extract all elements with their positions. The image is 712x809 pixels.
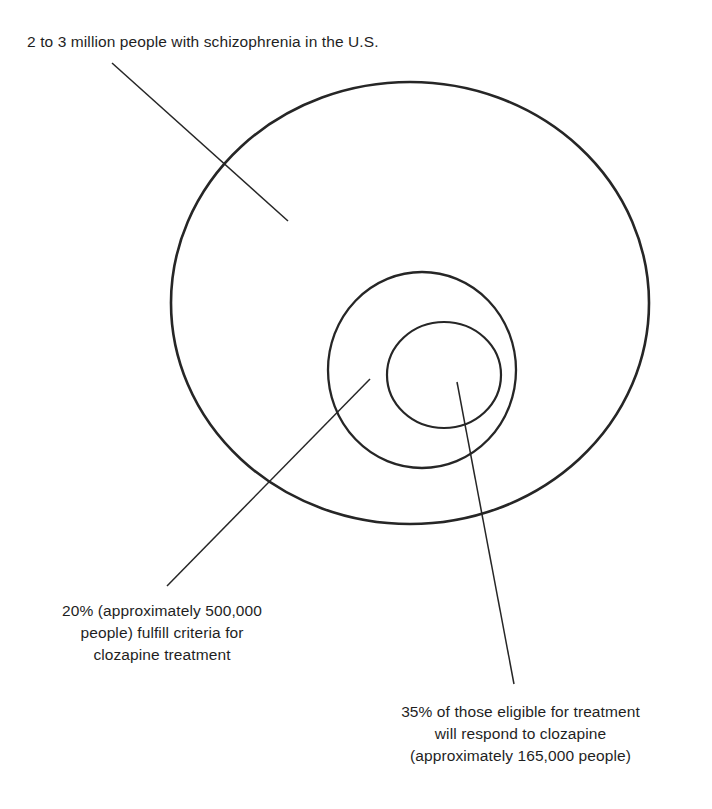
nested-circle-diagram: 2 to 3 million people with schizophrenia… <box>0 0 712 809</box>
diagram-canvas <box>0 0 712 809</box>
outer-circle-label: 2 to 3 million people with schizophrenia… <box>27 31 379 53</box>
inner-circle-label: 35% of those eligible for treatment will… <box>348 701 693 767</box>
inner-circle <box>387 322 501 428</box>
leader-line-middle <box>167 379 370 586</box>
middle-circle-label: 20% (approximately 500,000 people) fulfi… <box>22 600 302 666</box>
middle-circle <box>328 272 516 468</box>
outer-circle <box>171 82 649 524</box>
leader-line-inner <box>457 382 514 684</box>
